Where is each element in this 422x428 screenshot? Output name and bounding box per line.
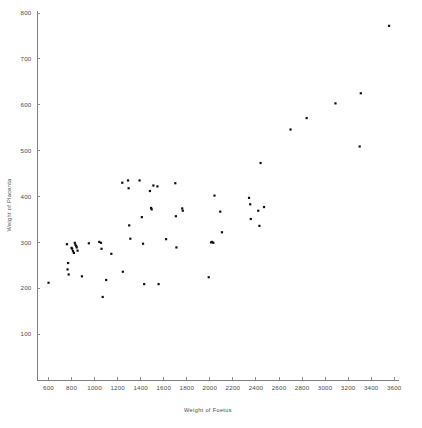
x-axis: 6008001000120014001600180020002200240026…	[37, 377, 402, 391]
data-point	[248, 197, 250, 199]
data-point	[100, 242, 102, 244]
y-tick-label: 700	[21, 55, 32, 62]
y-tick-label: 200	[21, 284, 32, 291]
data-point	[141, 216, 143, 218]
data-point	[73, 252, 75, 254]
data-point	[258, 225, 260, 227]
data-point	[174, 182, 176, 184]
data-point	[68, 273, 70, 275]
data-point	[88, 242, 90, 244]
data-point	[219, 211, 221, 213]
x-tick-label: 1000	[87, 384, 102, 391]
data-point	[175, 215, 177, 217]
data-point	[67, 262, 69, 264]
data-point	[388, 25, 390, 27]
y-axis-title: Weight of Placenta	[6, 178, 12, 232]
x-tick-label: 1800	[180, 384, 195, 391]
data-point	[127, 179, 129, 181]
data-point	[71, 248, 73, 250]
data-point	[110, 253, 112, 255]
data-point	[76, 250, 78, 252]
x-tick-label: 1200	[110, 384, 125, 391]
x-tick-label: 2400	[249, 384, 264, 391]
data-point	[149, 190, 151, 192]
data-point	[81, 275, 83, 277]
x-axis-title: Weight of Foetus	[184, 407, 232, 413]
data-point	[142, 243, 144, 245]
x-tick-label: 3200	[341, 384, 356, 391]
data-point	[151, 208, 153, 210]
x-tick-label: 3400	[364, 384, 379, 391]
data-point	[221, 231, 223, 233]
x-tick-label: 3600	[387, 384, 402, 391]
data-point	[359, 145, 361, 147]
data-point	[263, 206, 265, 208]
data-point	[165, 238, 167, 240]
data-point	[259, 162, 261, 164]
x-tick-label: 2600	[272, 384, 287, 391]
y-tick-label: 100	[21, 330, 32, 337]
data-point	[157, 283, 159, 285]
data-point	[334, 102, 336, 104]
x-tick-label: 2200	[226, 384, 241, 391]
x-tick-label: 800	[66, 384, 77, 391]
data-point	[66, 268, 68, 270]
x-tick-label: 1600	[156, 384, 171, 391]
x-tick-label: 2800	[295, 384, 310, 391]
data-point	[47, 282, 49, 284]
data-point	[175, 246, 177, 248]
y-axis: 100200300400500600700800	[21, 9, 41, 380]
data-point	[102, 296, 104, 298]
plot-area: 100200300400500600700800 600800100012001…	[0, 0, 422, 428]
data-point	[76, 246, 78, 248]
data-point	[66, 243, 68, 245]
data-point	[249, 203, 251, 205]
data-point	[212, 242, 214, 244]
x-tick-label: 1400	[133, 384, 148, 391]
y-tick-label: 800	[21, 9, 32, 16]
data-point	[257, 210, 259, 212]
data-point	[121, 182, 123, 184]
y-tick-label: 600	[21, 101, 32, 108]
data-point	[208, 276, 210, 278]
data-point	[181, 207, 183, 209]
x-tick-label: 600	[43, 384, 54, 391]
x-tick-label: 2000	[203, 384, 218, 391]
data-point	[360, 92, 362, 94]
data-point	[213, 194, 215, 196]
data-point	[143, 283, 145, 285]
data-point	[122, 271, 124, 273]
data-point	[138, 179, 140, 181]
y-tick-label: 400	[21, 193, 32, 200]
data-point	[129, 238, 131, 240]
y-tick-label: 500	[21, 147, 32, 154]
data-point	[105, 279, 107, 281]
data-point	[306, 117, 308, 119]
x-tick-label: 3000	[318, 384, 333, 391]
y-tick-label: 300	[21, 239, 32, 246]
data-points	[47, 25, 390, 298]
data-point	[289, 128, 291, 130]
data-point	[128, 224, 130, 226]
data-point	[152, 184, 154, 186]
data-point	[156, 185, 158, 187]
data-point	[250, 218, 252, 220]
scatter-chart: 100200300400500600700800 600800100012001…	[0, 0, 422, 428]
data-point	[128, 187, 130, 189]
data-point	[100, 248, 102, 250]
data-point	[182, 210, 184, 212]
